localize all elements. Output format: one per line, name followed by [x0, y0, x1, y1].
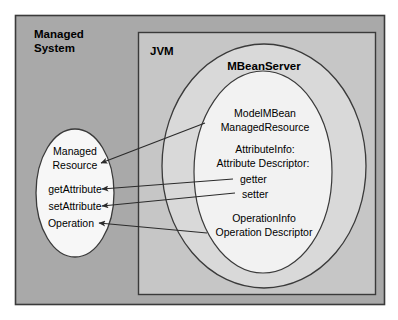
managed-resource-item-setattribute: setAttribute [48, 200, 101, 212]
managed-system-title-line1: Managed [34, 28, 84, 40]
diagram-canvas: Managed System JVM MBeanServer Managed R… [0, 0, 398, 320]
inner-label-attributeinfo: AttributeInfo: [235, 143, 295, 155]
inner-label-operation-descriptor: Operation Descriptor [216, 226, 313, 238]
inner-label-operationinfo: OperationInfo [232, 212, 296, 224]
managed-resource-item-operation: Operation [48, 217, 94, 229]
managed-system-title-line2: System [34, 42, 75, 54]
inner-label-setter: setter [242, 188, 269, 200]
managed-resource-label-line1: Managed [53, 145, 97, 157]
managed-resource-label-line2: Resource [53, 159, 98, 171]
jvm-title: JVM [150, 45, 174, 57]
inner-label-getter: getter [240, 173, 267, 185]
jmx-architecture-diagram: Managed System JVM MBeanServer Managed R… [0, 0, 398, 320]
inner-label-managedresource: ManagedResource [221, 121, 310, 133]
inner-label-attribute-descriptor: Attribute Descriptor: [217, 157, 310, 169]
modelmbean-inner-ellipse [194, 71, 332, 273]
mbeanserver-title: MBeanServer [227, 60, 301, 72]
inner-label-modelmbean: ModelMBean [234, 107, 296, 119]
managed-resource-item-getattribute: getAttribute [48, 183, 102, 195]
